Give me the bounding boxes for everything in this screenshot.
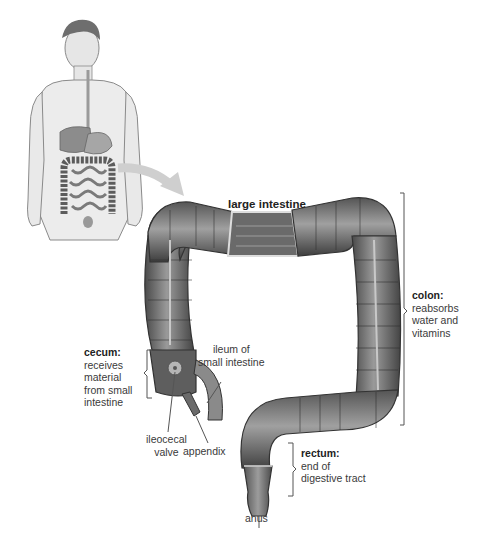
cecum-desc-line: from small [84,384,132,397]
ileocecal-valve-label: ileocecal valve [146,433,187,458]
cecum-label: cecum: receives material from small inte… [84,346,132,409]
appendix-label: appendix [183,445,226,458]
cecum-desc-line: material [84,371,132,384]
diagram-art [0,0,485,538]
ileocecal-line: ileocecal [146,433,187,446]
colon-desc-line: water and [412,314,459,327]
colon-desc-line: vitamins [412,327,459,340]
anus-label: anus [245,512,268,525]
ileum-line: ileum of [198,343,265,356]
cecum-desc-line: receives [84,359,132,372]
rectum-term: rectum: [301,447,366,460]
rectum-desc-line: digestive tract [301,472,366,485]
colon-label: colon: reabsorbs water and vitamins [412,289,459,339]
ileum-label: ileum of small intestine [198,343,265,368]
colon-desc-line: reabsorbs [412,302,459,315]
human-figure [28,20,143,240]
ileum-line: small intestine [198,356,265,369]
colon-term: colon: [412,289,459,302]
cecum-term: cecum: [84,346,132,359]
cecum-desc-line: intestine [84,396,132,409]
rectum-desc-line: end of [301,460,366,473]
rectum-label: rectum: end of digestive tract [301,447,366,485]
ileocecal-line: valve [146,446,187,459]
large-intestine-title: large intestine [228,198,306,210]
